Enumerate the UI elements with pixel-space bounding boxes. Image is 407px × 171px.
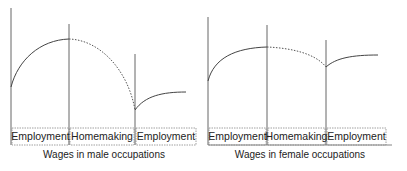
wage-curve-employment-1 — [208, 47, 267, 81]
female-occupations-diagram: Employment Homemaking Employment Wages i… — [208, 17, 392, 160]
diagram-caption: Wages in female occupations — [235, 149, 365, 160]
wage-curve-homemaking — [69, 39, 135, 110]
segment-label: Homemaking — [266, 130, 328, 142]
wage-diagrams: Employment Homemaking Employment Wages i… — [0, 0, 407, 171]
wage-curve-employment-2 — [326, 55, 378, 67]
segment-label: Homemaking — [71, 130, 133, 142]
wage-curve-employment-1 — [11, 39, 69, 87]
male-occupations-diagram: Employment Homemaking Employment Wages i… — [11, 8, 196, 160]
wage-curve-employment-2 — [135, 92, 186, 110]
segment-label: Employment — [11, 130, 69, 142]
segment-label: Employment — [208, 130, 266, 142]
wage-curve-homemaking — [267, 47, 326, 67]
segment-label: Employment — [327, 130, 385, 142]
diagram-caption: Wages in male occupations — [43, 149, 165, 160]
segment-label: Employment — [137, 130, 195, 142]
